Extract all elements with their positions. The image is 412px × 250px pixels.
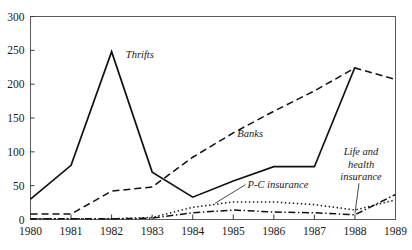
line-chart: ThriftsBanksP-C insuranceLife andhealthi… <box>0 0 412 250</box>
y-axis-ticks <box>31 17 35 220</box>
series-label-p-c-insurance: P-C insurance <box>246 179 308 190</box>
series-lines <box>31 52 396 219</box>
y-tick-label: 300 <box>7 11 25 23</box>
x-tick-label: 1985 <box>222 225 245 237</box>
x-tick-label: 1982 <box>100 225 123 237</box>
series-line-p-c-insurance <box>31 200 396 219</box>
y-tick-label: 150 <box>7 112 25 124</box>
x-tick-label: 1989 <box>384 225 407 237</box>
series-label-thrifts: Thrifts <box>126 49 154 60</box>
y-tick-label: 50 <box>13 180 25 192</box>
series-label-banks: Banks <box>237 128 263 139</box>
series-annotations: ThriftsBanksP-C insuranceLife andhealthi… <box>126 49 382 213</box>
series-line-thrifts <box>31 52 355 200</box>
x-axis-tick-labels: 1980198119821983198419851986198719881989 <box>19 225 407 237</box>
y-tick-label: 100 <box>7 146 25 158</box>
y-tick-label: 200 <box>7 78 25 90</box>
chart-figure: ThriftsBanksP-C insuranceLife andhealthi… <box>0 0 412 250</box>
x-tick-label: 1983 <box>141 225 164 237</box>
y-axis-tick-labels: 050100150200250300 <box>7 11 25 226</box>
x-tick-label: 1980 <box>19 225 42 237</box>
x-tick-label: 1988 <box>343 225 366 237</box>
cropped-caption-strip <box>0 243 412 250</box>
y-tick-label: 250 <box>7 44 25 56</box>
series-line-banks <box>31 68 396 214</box>
x-tick-label: 1987 <box>303 225 326 237</box>
x-tick-label: 1984 <box>181 225 204 237</box>
series-label-life-and-health-insurance: Life andhealthinsurance <box>340 146 382 182</box>
x-tick-label: 1981 <box>60 225 83 237</box>
x-tick-label: 1986 <box>262 225 285 237</box>
